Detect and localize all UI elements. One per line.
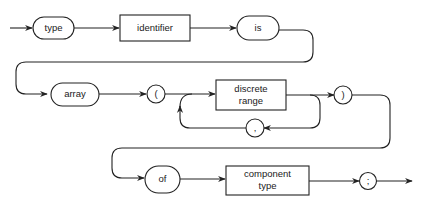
terminal-type: type	[33, 17, 74, 39]
repeat-loop-join	[180, 94, 192, 107]
terminal-is-label: is	[255, 22, 262, 33]
row-2: array ( discrete range ) ,	[51, 80, 390, 178]
terminal-rparen: )	[334, 86, 352, 104]
nonterminal-component-type: component type	[226, 166, 309, 195]
terminal-is: is	[237, 16, 279, 40]
nonterminal-discrete-range-label-line1: discrete	[234, 83, 267, 94]
nonterminal-identifier-label: identifier	[137, 22, 173, 33]
terminal-type-label: type	[45, 22, 63, 33]
nonterminal-discrete-range-label-line2: range	[239, 95, 263, 106]
terminal-comma-label: ,	[254, 122, 257, 133]
terminal-lparen: (	[147, 85, 165, 103]
nonterminal-identifier: identifier	[120, 15, 190, 41]
syntax-diagram: type identifier is array ( discrete ran	[0, 0, 425, 211]
terminal-rparen-label: )	[341, 89, 344, 100]
terminal-semicolon-label: ;	[367, 175, 370, 186]
nonterminal-discrete-range: discrete range	[216, 80, 286, 110]
nonterminal-component-type-label-line1: component	[244, 168, 291, 179]
terminal-array-label: array	[64, 88, 86, 99]
terminal-array: array	[51, 83, 99, 106]
terminal-comma: ,	[246, 119, 264, 137]
terminal-of-label: of	[159, 173, 167, 184]
terminal-semicolon: ;	[360, 173, 377, 190]
terminal-of: of	[145, 166, 180, 193]
row-3: of component type ;	[145, 166, 412, 195]
nonterminal-component-type-label-line2: type	[259, 180, 277, 191]
